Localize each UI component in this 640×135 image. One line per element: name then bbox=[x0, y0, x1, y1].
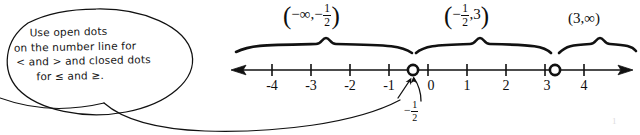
neg-half-sign: − bbox=[404, 103, 411, 117]
open-dot-neg-half bbox=[408, 65, 418, 75]
scan-artifact-mark: 1 bbox=[612, 116, 617, 126]
tick-label-neg3: -3 bbox=[298, 78, 324, 94]
tick-label-1: 1 bbox=[454, 78, 480, 94]
tick-label-2: 2 bbox=[493, 78, 519, 94]
tick-label-3: 3 bbox=[534, 78, 560, 94]
brace-interval-1 bbox=[236, 38, 412, 53]
tick-label-neg2: -2 bbox=[337, 78, 363, 94]
tail-arrow-head bbox=[406, 78, 412, 85]
interval-2-right-endpoint: 3 bbox=[473, 6, 481, 22]
interval-1-right-fraction: 12 bbox=[323, 3, 331, 29]
note-text-block: Use open dots on the number line for < a… bbox=[13, 22, 190, 84]
interval-2-close-paren: ) bbox=[481, 2, 489, 29]
open-dot-three bbox=[550, 65, 560, 75]
interval-1-close-paren: ) bbox=[331, 2, 339, 29]
interval-1-left-endpoint: −∞ bbox=[291, 6, 310, 22]
interval-label-2: (−12,3) bbox=[444, 2, 489, 30]
brace-interval-3 bbox=[559, 38, 636, 53]
tick-label-4: 4 bbox=[571, 78, 597, 94]
interval-label-1: (−∞,−12) bbox=[283, 2, 340, 30]
brace-interval-2 bbox=[416, 38, 551, 53]
tick-label-neg1: -1 bbox=[376, 78, 402, 94]
neg-half-fraction: 12 bbox=[411, 100, 418, 123]
neg-half-callout-label: −12 bbox=[404, 100, 419, 123]
note-line-4: for ≤ and ≥. bbox=[36, 66, 190, 84]
interval-2-left-sign: − bbox=[452, 6, 460, 22]
tick-label-0: 0 bbox=[418, 78, 444, 94]
interval-2-left-fraction: 12 bbox=[461, 3, 469, 29]
callout-arrow-head bbox=[411, 76, 417, 83]
worksheet-figure: Use open dots on the number line for < a… bbox=[0, 0, 640, 135]
interval-1-right-sign: − bbox=[314, 6, 322, 22]
interval-label-3: (3,∞) bbox=[568, 10, 600, 27]
tick-label-neg4: -4 bbox=[259, 78, 285, 94]
